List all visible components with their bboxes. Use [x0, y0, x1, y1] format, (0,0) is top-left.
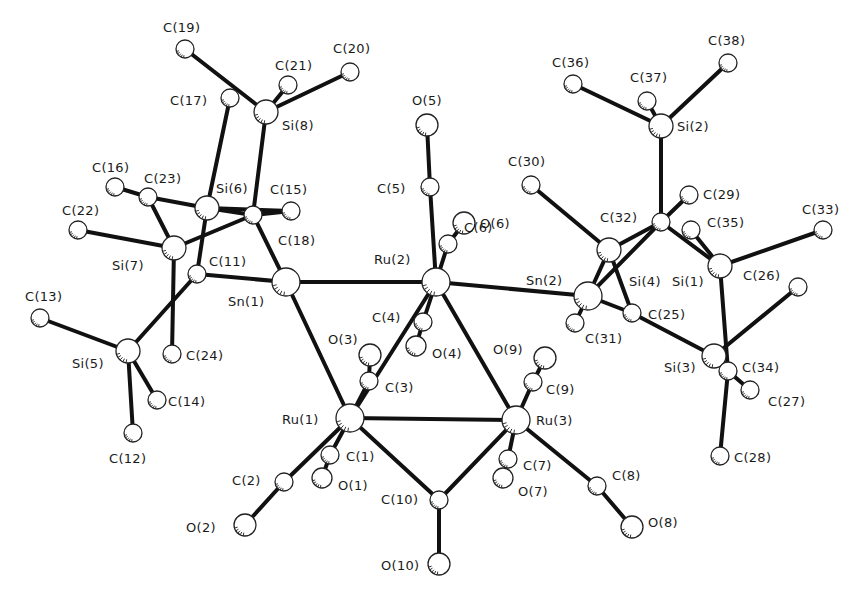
- atom-c28: [711, 447, 729, 465]
- atom-c33: [814, 221, 832, 239]
- bond-si3-cx: [714, 287, 798, 356]
- atom-c25: [623, 304, 641, 322]
- atom-o7: [493, 468, 513, 488]
- atom-ru3: [502, 406, 530, 434]
- atom-c10: [430, 491, 448, 509]
- molecule-diagram: Ru(1)Ru(2)Ru(3)Sn(1)Sn(2)Si(1)Si(2)Si(3)…: [0, 0, 867, 591]
- atom-label-c24: C(24): [186, 348, 223, 363]
- atom-c17: [221, 89, 239, 107]
- atom-label-c1: C(1): [346, 449, 375, 464]
- atom-c19: [176, 40, 194, 58]
- atom-label-c35: C(35): [707, 215, 744, 230]
- atom-label-c21: C(21): [275, 58, 312, 73]
- atom-label-c20: C(20): [333, 41, 370, 56]
- atom-o2: [234, 514, 256, 536]
- atom-label-si5: Si(5): [72, 356, 104, 371]
- bond-ru3-c8: [516, 420, 597, 486]
- atom-label-c2: C(2): [232, 473, 261, 488]
- atom-c32: [652, 213, 670, 231]
- atom-label-o10: O(10): [381, 558, 419, 573]
- atom-label-c38: C(38): [708, 33, 745, 48]
- atom-label-si2: Si(2): [677, 119, 709, 134]
- bond-si7-c24: [172, 248, 174, 354]
- atom-label-c30: C(30): [508, 154, 545, 169]
- atom-label-c37: C(37): [630, 70, 667, 85]
- atom-label-si4: Si(4): [629, 274, 661, 289]
- atom-label-c33: C(33): [802, 202, 839, 217]
- atom-label-c25: C(25): [648, 307, 685, 322]
- atom-o3: [359, 344, 381, 366]
- atom-cx: [789, 278, 807, 296]
- atom-label-o4: O(4): [432, 346, 462, 361]
- atom-c5: [421, 178, 439, 196]
- atom-si2: [649, 114, 673, 138]
- atom-si5: [116, 339, 140, 363]
- atom-c12: [124, 424, 142, 442]
- bond-c34-c28: [720, 371, 728, 456]
- atom-o4: [406, 336, 426, 356]
- atom-c31: [566, 314, 584, 332]
- bond-si4-c30: [531, 185, 609, 250]
- bond-c18-si7: [174, 215, 253, 248]
- atom-c6: [439, 235, 457, 253]
- atom-label-c10: C(10): [381, 492, 418, 507]
- atom-c24: [163, 345, 181, 363]
- atom-label-c14: C(14): [168, 394, 205, 409]
- atom-label-si1: Si(1): [672, 274, 704, 289]
- atom-c13: [31, 309, 49, 327]
- bond-c11-si5: [128, 274, 197, 351]
- atom-c18: [244, 206, 262, 224]
- atom-label-c9: C(9): [546, 382, 575, 397]
- atom-label-si3: Si(3): [664, 360, 696, 375]
- atom-c8: [588, 477, 606, 495]
- atom-label-c22: C(22): [62, 203, 99, 218]
- atom-c37: [638, 92, 656, 110]
- atom-c15: [282, 202, 300, 220]
- atom-label-c16: C(16): [92, 160, 129, 175]
- atom-si1: [708, 254, 732, 278]
- atom-label-o1: O(1): [338, 478, 368, 493]
- atom-label-si7: Si(7): [112, 258, 144, 273]
- atom-o1: [312, 468, 332, 488]
- atom-label-c28: C(28): [734, 450, 771, 465]
- atom-label-o8: O(8): [648, 515, 678, 530]
- atom-label-o5: O(5): [412, 93, 442, 108]
- atom-o9: [534, 347, 556, 369]
- atom-label-c12: C(12): [109, 451, 146, 466]
- atom-c29: [680, 186, 698, 204]
- atom-si7: [162, 236, 186, 260]
- atom-c36: [564, 75, 582, 93]
- atom-label-c17: C(17): [170, 93, 207, 108]
- atom-label-c26: C(26): [743, 268, 780, 283]
- atom-label-c19: C(19): [163, 20, 200, 35]
- atom-c1: [321, 446, 339, 464]
- atom-c14: [148, 391, 166, 409]
- atom-label-ru2: Ru(2): [374, 252, 411, 267]
- atom-label-c7: C(7): [523, 458, 552, 473]
- atom-ru2: [422, 268, 450, 296]
- atom-c4: [414, 313, 432, 331]
- atom-c7: [499, 450, 517, 468]
- atom-label-c3: C(3): [385, 380, 414, 395]
- bond-ru1-ru3: [350, 418, 516, 420]
- atom-o5: [416, 114, 438, 136]
- bond-ru1-sn1: [286, 282, 350, 418]
- atom-c11: [188, 265, 206, 283]
- atom-si4: [597, 238, 621, 262]
- atom-si6: [195, 196, 219, 220]
- atom-o10: [428, 553, 450, 575]
- atom-label-sn2: Sn(2): [526, 273, 562, 288]
- bond-si7-c22: [78, 230, 174, 248]
- bond-si8-c20: [266, 72, 350, 112]
- atom-c16: [106, 178, 124, 196]
- atom-c21: [279, 76, 297, 94]
- atom-label-c8: C(8): [612, 468, 641, 483]
- atom-label-o2: O(2): [186, 520, 216, 535]
- atom-label-c11: C(11): [209, 254, 246, 269]
- atom-label-c4: C(4): [372, 310, 401, 325]
- atom-label-c27: C(27): [768, 394, 805, 409]
- atom-label-o9: O(9): [493, 342, 523, 357]
- atom-c20: [341, 63, 359, 81]
- atom-layer: [31, 40, 832, 575]
- atom-label-c29: C(29): [703, 187, 740, 202]
